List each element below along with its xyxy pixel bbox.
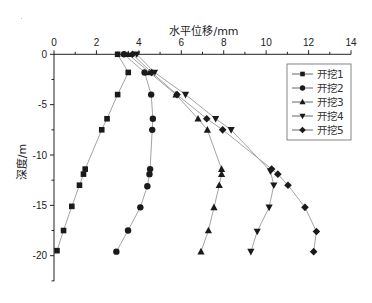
x-tick-label: 8 xyxy=(221,37,227,48)
triangle-up-marker-icon xyxy=(216,181,223,188)
triangle-up-marker-icon xyxy=(205,227,212,234)
y-axis-title: 深度/m xyxy=(15,144,29,180)
square-marker-icon xyxy=(115,92,121,98)
square-marker-icon xyxy=(81,171,87,177)
circle-marker-icon xyxy=(144,183,150,189)
triangle-up-marker-icon xyxy=(210,204,217,211)
diamond-marker-icon xyxy=(310,248,318,256)
y-tick-label: 0 xyxy=(41,49,47,60)
series-line xyxy=(128,54,221,251)
y-tick-label: -15 xyxy=(33,200,48,211)
series-line xyxy=(116,54,152,251)
square-marker-icon xyxy=(61,228,67,234)
legend-label: 开挖3 xyxy=(317,96,344,108)
diamond-marker-icon xyxy=(301,204,309,212)
series-1 xyxy=(54,52,131,254)
x-tick-label: 0 xyxy=(51,37,57,48)
y-tick-label: -10 xyxy=(33,150,48,161)
triangle-down-marker-icon xyxy=(182,92,189,99)
diamond-marker-icon xyxy=(313,228,321,236)
series-layer xyxy=(54,51,320,256)
circle-marker-icon xyxy=(150,116,156,122)
triangle-down-marker-icon xyxy=(247,249,254,256)
square-marker-icon xyxy=(99,127,105,133)
x-axis-title: 水平位移/mm xyxy=(169,24,238,38)
diamond-marker-icon xyxy=(219,126,227,134)
square-marker-icon xyxy=(82,166,88,172)
circle-marker-icon xyxy=(113,248,119,254)
x-tick-label: 6 xyxy=(179,37,185,48)
circle-marker-icon xyxy=(146,171,152,177)
legend-label: 开挖4 xyxy=(317,110,344,122)
triangle-down-marker-icon xyxy=(212,116,219,123)
circle-marker-icon xyxy=(137,204,143,210)
circle-marker-icon xyxy=(149,127,155,133)
square-marker-icon xyxy=(125,70,131,76)
x-tick-label: 12 xyxy=(303,37,315,48)
x-axis: 02468101214 xyxy=(51,37,357,54)
x-tick-label: 14 xyxy=(345,37,357,48)
triangle-down-marker-icon xyxy=(254,229,261,236)
series-2 xyxy=(113,51,156,255)
circle-marker-icon xyxy=(148,91,154,97)
x-tick-label: 2 xyxy=(94,37,100,48)
triangle-down-marker-icon xyxy=(266,205,273,212)
legend-label: 开挖5 xyxy=(317,124,344,136)
series-line xyxy=(137,54,274,251)
legend-label: 开挖2 xyxy=(317,82,344,94)
depth-displacement-chart: 水平位移/mm 02468101214 0-5-10-15-20 深度/m 开挖… xyxy=(0,0,372,303)
square-marker-icon xyxy=(69,204,75,210)
triangle-up-marker-icon xyxy=(197,248,204,255)
y-tick-label: -20 xyxy=(33,250,48,261)
square-marker-icon xyxy=(77,182,83,188)
square-marker-icon xyxy=(54,248,60,254)
circle-marker-icon xyxy=(125,227,131,233)
x-tick-label: 10 xyxy=(261,37,273,48)
x-tick-label: 4 xyxy=(136,37,142,48)
square-marker-icon xyxy=(115,52,121,58)
y-axis: 0-5-10-15-20 xyxy=(33,49,54,281)
circle-marker-icon xyxy=(300,85,305,90)
legend-label: 开挖1 xyxy=(317,68,344,80)
triangle-down-marker-icon xyxy=(270,182,277,189)
series-3 xyxy=(125,51,226,255)
series-4 xyxy=(133,52,277,256)
square-marker-icon xyxy=(104,116,110,122)
y-tick-label: -5 xyxy=(38,99,47,110)
square-marker-icon xyxy=(300,72,305,77)
legend: 开挖1开挖2开挖3开挖4开挖5 xyxy=(287,64,351,140)
series-line xyxy=(57,54,128,250)
